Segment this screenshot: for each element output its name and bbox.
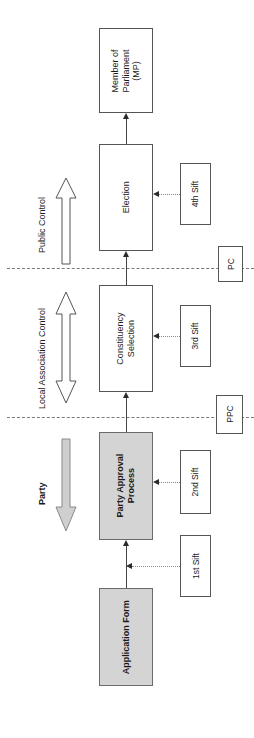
block-arrow-public-control-up-icon (55, 176, 77, 266)
sift-label-1st-sift: 1st Sift (190, 553, 200, 579)
band-label-party: Party (37, 482, 47, 505)
feeder-3rd-sift-to-constituency (159, 336, 180, 337)
stage-box-member-of-parliament[interactable]: Member of Parliament (MP) (99, 28, 153, 113)
band-label-public-control: Public Control (37, 197, 47, 253)
arrowhead-application-to-party-approval-icon (123, 540, 129, 546)
sift-box-3rd-sift[interactable]: 3rd Sift (180, 305, 211, 367)
stage-label-party-approval-process: Party Approval Process (115, 454, 136, 518)
arrowhead-election-to-mp-icon (123, 113, 129, 119)
diagram-canvas: Public Control Local Association Control… (0, 0, 254, 738)
connector-party-approval-to-constituency (126, 398, 127, 432)
arrowhead-2nd-sift-icon (153, 479, 159, 485)
stage-label-line3: (MP) (131, 61, 141, 81)
feeder-1st-sift-to-application-connector (132, 566, 180, 567)
stage-box-election[interactable]: Election (99, 144, 153, 251)
feeder-2nd-sift-to-party-approval (159, 482, 180, 483)
status-tag-ppc[interactable]: PPC (216, 395, 243, 434)
arrowhead-constituency-to-election-icon (123, 251, 129, 257)
stage-box-application-form[interactable]: Application Form (99, 588, 153, 686)
status-tag-pc[interactable]: PC (218, 246, 243, 282)
stage-label-application-form: Application Form (121, 600, 132, 674)
arrowhead-1st-sift-icon (126, 563, 132, 569)
stage-label-line1: Constituency (115, 312, 125, 364)
arrowhead-party-approval-to-constituency-icon (123, 392, 129, 398)
stage-box-party-approval-process[interactable]: Party Approval Process (99, 432, 153, 540)
sift-box-4th-sift[interactable]: 4th Sift (180, 163, 211, 225)
stage-label-election: Election (121, 181, 132, 213)
sift-label-2nd-sift: 2nd Sift (190, 468, 200, 497)
stage-box-constituency-selection[interactable]: Constituency Selection (99, 285, 153, 392)
stage-label-line1: Party Approval (115, 454, 125, 518)
sift-label-3rd-sift: 3rd Sift (190, 323, 200, 350)
feeder-4th-sift-to-election (159, 194, 180, 195)
stage-label-line2: Selection (126, 320, 136, 357)
stage-label-constituency-selection: Constituency Selection (115, 312, 136, 364)
status-tag-label-ppc: PPC (224, 406, 234, 423)
block-arrow-local-association-control-updown-icon (55, 290, 77, 405)
stage-label-line1: Member of (110, 49, 120, 92)
arrowhead-3rd-sift-icon (153, 333, 159, 339)
sift-box-1st-sift[interactable]: 1st Sift (180, 535, 211, 597)
sift-label-4th-sift: 4th Sift (190, 181, 200, 207)
stage-label-line2: Parliament (121, 49, 131, 92)
block-arrow-party-down-icon (55, 437, 77, 533)
band-label-local-association-control: Local Association Control (37, 308, 47, 409)
connector-election-to-mp (126, 119, 127, 144)
arrowhead-4th-sift-icon (153, 191, 159, 197)
status-tag-label-pc: PC (225, 258, 235, 270)
connector-constituency-to-election (126, 257, 127, 285)
divider-public-local (7, 268, 254, 269)
sift-box-2nd-sift[interactable]: 2nd Sift (180, 450, 211, 514)
stage-label-member-of-parliament: Member of Parliament (MP) (110, 49, 142, 92)
stage-label-line2: Process (126, 468, 136, 503)
